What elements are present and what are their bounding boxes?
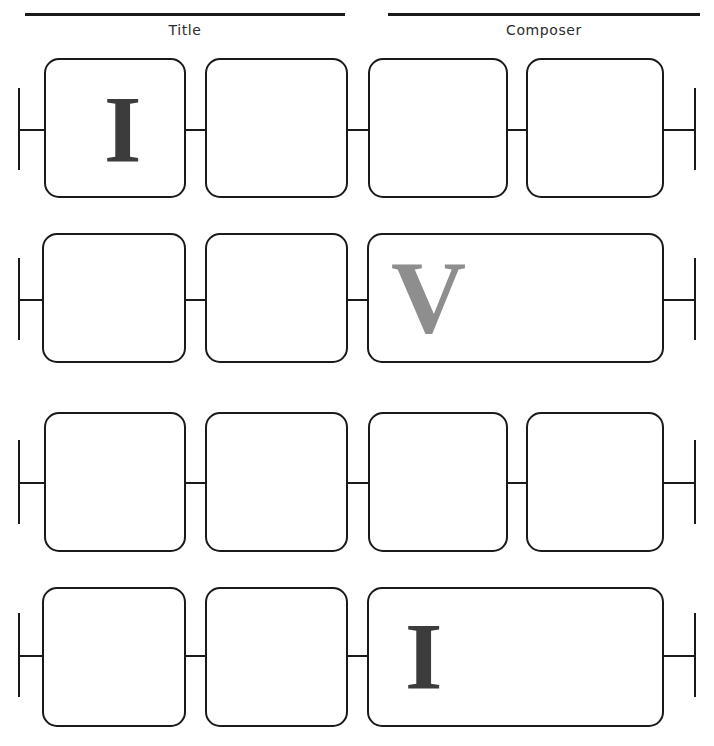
measure-1-2[interactable] [205, 58, 348, 198]
row-2-connector-2 [186, 299, 205, 301]
header-rule-title [25, 13, 345, 16]
row-2-right-barline [694, 258, 696, 340]
row-4-connector-2 [186, 655, 205, 657]
row-3-connector-5 [664, 482, 694, 484]
row-3-connector-3 [348, 482, 368, 484]
measure-3-2[interactable] [205, 412, 348, 552]
row-2-connector-3 [348, 299, 367, 301]
row-3-connector-1 [18, 482, 44, 484]
row-3-connector-4 [508, 482, 526, 484]
row-4-connector-3 [348, 655, 367, 657]
measure-3-3[interactable] [368, 412, 508, 552]
measure-1-4[interactable] [526, 58, 664, 198]
worksheet-canvas: TitleComposerIVI [0, 0, 714, 746]
row-4-right-barline [694, 613, 696, 697]
measure-1-1-glyph: I [104, 82, 141, 178]
measure-1-3[interactable] [368, 58, 508, 198]
measure-4-1[interactable] [42, 587, 186, 727]
measure-3-1[interactable] [44, 412, 186, 552]
header-label-composer: Composer [388, 22, 700, 38]
row-3-right-barline [694, 440, 696, 524]
row-3-connector-2 [186, 482, 205, 484]
measure-4-3-glyph: I [405, 609, 442, 705]
measure-3-4[interactable] [526, 412, 664, 552]
row-1-connector-3 [348, 129, 368, 131]
row-2-connector-1 [18, 299, 42, 301]
row-2-connector-4 [664, 299, 694, 301]
row-4-connector-1 [18, 655, 42, 657]
measure-2-1[interactable] [42, 233, 186, 363]
measure-2-3-glyph: V [391, 245, 466, 349]
measure-2-2[interactable] [205, 233, 348, 363]
row-1-right-barline [694, 88, 696, 170]
header-rule-composer [388, 13, 700, 16]
measure-4-2[interactable] [205, 587, 348, 727]
row-1-connector-5 [664, 129, 694, 131]
header-label-title: Title [25, 22, 345, 38]
row-1-connector-1 [18, 129, 44, 131]
row-1-connector-2 [186, 129, 205, 131]
row-4-connector-4 [664, 655, 694, 657]
row-1-connector-4 [508, 129, 526, 131]
